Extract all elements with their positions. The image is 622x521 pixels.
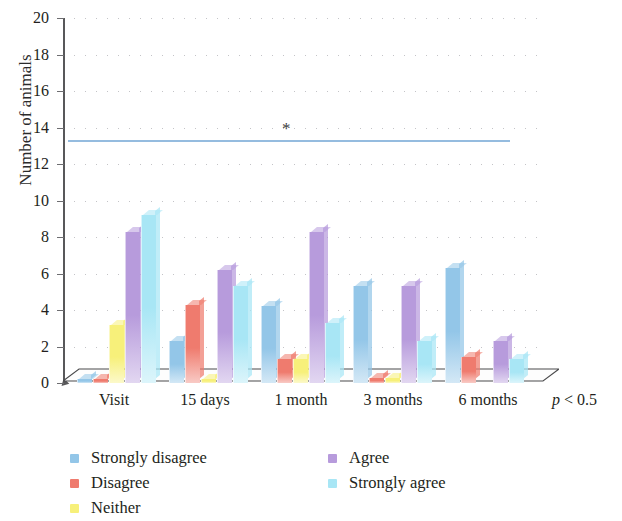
legend-label: Neither xyxy=(91,498,140,518)
bar xyxy=(369,378,383,383)
legend-item[interactable]: Disagree xyxy=(70,473,150,493)
bar xyxy=(261,306,275,383)
bar-face xyxy=(369,378,384,383)
bar-face xyxy=(401,286,416,383)
bar-face xyxy=(141,215,156,383)
bar xyxy=(293,359,307,383)
bar-face xyxy=(93,379,108,383)
x-axis-label: 15 days xyxy=(157,391,253,409)
legend-label: Strongly agree xyxy=(349,473,446,493)
legend-item[interactable]: Neither xyxy=(70,498,140,518)
significance-line xyxy=(68,140,510,142)
bar xyxy=(509,359,523,383)
bar-face xyxy=(277,359,292,383)
bar-face xyxy=(217,270,232,383)
bar xyxy=(217,270,231,383)
chart-figure: Number of animals 20181614121086420 * Vi… xyxy=(0,0,622,521)
bar-series-layer xyxy=(63,18,548,383)
bar-face xyxy=(417,341,432,383)
bar xyxy=(401,286,415,383)
bar xyxy=(77,379,91,383)
bar-face xyxy=(261,306,276,383)
bar xyxy=(445,268,459,383)
bar xyxy=(385,378,399,383)
bar-face xyxy=(169,341,184,383)
bar xyxy=(461,357,475,383)
bar xyxy=(169,341,183,383)
bar xyxy=(353,286,367,383)
bar-face xyxy=(77,379,92,383)
bar xyxy=(417,341,431,383)
y-axis-tick-label: 8 xyxy=(15,229,49,245)
legend-label: Disagree xyxy=(91,473,150,493)
bar xyxy=(277,359,291,383)
chart-legend: Strongly disagreeDisagreeNeitherAgreeStr… xyxy=(70,448,610,520)
bar xyxy=(493,341,507,383)
bar-face xyxy=(325,323,340,383)
bar-group xyxy=(353,18,441,383)
p-value-note: p < 0.5 xyxy=(552,391,597,409)
y-axis-tick-label: 0 xyxy=(15,375,49,391)
bar xyxy=(325,323,339,383)
bar xyxy=(309,232,323,383)
bar xyxy=(109,325,123,383)
legend-item[interactable]: Strongly agree xyxy=(328,473,446,493)
x-axis-label: 3 months xyxy=(345,391,441,409)
bar-face xyxy=(493,341,508,383)
y-axis-tick-label: 18 xyxy=(15,47,49,63)
bar-face xyxy=(353,286,368,383)
legend-swatch-icon xyxy=(328,454,337,463)
bar-face xyxy=(385,378,400,383)
bar-face xyxy=(233,286,248,383)
y-axis-tick-label: 12 xyxy=(15,156,49,172)
legend-swatch-icon xyxy=(70,479,79,488)
bar-face xyxy=(109,325,124,383)
y-axis-tick-label: 10 xyxy=(15,193,49,209)
y-axis-tick-label: 14 xyxy=(15,120,49,136)
legend-item[interactable]: Agree xyxy=(328,448,389,468)
x-axis-label: 6 months xyxy=(440,391,536,409)
bar-group xyxy=(77,18,165,383)
y-axis-tick-label: 2 xyxy=(15,339,49,355)
bar-face xyxy=(125,232,140,383)
bar xyxy=(233,286,247,383)
bar xyxy=(125,232,139,383)
bar-face xyxy=(185,305,200,383)
bar xyxy=(93,379,107,383)
p-value-text: < 0.5 xyxy=(560,391,597,408)
bar-face xyxy=(509,359,524,383)
bar-face xyxy=(309,232,324,383)
legend-label: Agree xyxy=(349,448,389,468)
bar xyxy=(141,215,155,383)
x-axis-label: 1 month xyxy=(253,391,349,409)
bar xyxy=(201,379,215,383)
bar xyxy=(185,305,199,383)
bar-group xyxy=(169,18,257,383)
y-axis-tick-label: 4 xyxy=(15,302,49,318)
bar-face xyxy=(201,379,216,383)
y-axis-tick-label: 20 xyxy=(15,10,49,26)
legend-label: Strongly disagree xyxy=(91,448,207,468)
bar-face xyxy=(445,268,460,383)
legend-swatch-icon xyxy=(70,504,79,513)
bar-face xyxy=(461,357,476,383)
significance-asterisk: * xyxy=(282,120,291,137)
x-axis-label: Visit xyxy=(66,391,162,409)
legend-item[interactable]: Strongly disagree xyxy=(70,448,207,468)
bar-group xyxy=(445,18,533,383)
p-symbol: p xyxy=(552,391,560,408)
legend-swatch-icon xyxy=(70,454,79,463)
legend-swatch-icon xyxy=(328,479,337,488)
bar-group xyxy=(261,18,349,383)
bar-face xyxy=(293,359,308,383)
y-axis-tick-label: 16 xyxy=(15,83,49,99)
y-axis-tick-label: 6 xyxy=(15,266,49,282)
